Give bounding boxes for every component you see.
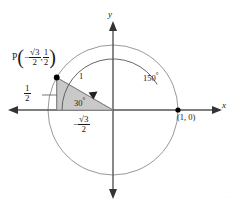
- reference-angle-label: 30°: [74, 97, 85, 107]
- reference-angle-value: 30: [74, 98, 83, 108]
- point-p-close-paren: ): [49, 49, 56, 67]
- point-p-x-denominator: 2: [29, 58, 40, 67]
- standard-angle-value: 150: [143, 73, 156, 83]
- figure-canvas: [0, 0, 236, 208]
- unit-circle-figure: P(−√32,12) 12 1 30° −√32 150° (1, 0) y x…: [0, 0, 236, 208]
- x-intercept-label: (1, 0): [177, 113, 195, 122]
- y-axis-arrow-up-icon: [109, 21, 117, 31]
- y-axis-arrow-down-icon: [109, 189, 117, 199]
- hypotenuse-label: 1: [79, 72, 83, 81]
- opposite-leg-denominator: 2: [24, 94, 31, 103]
- degree-symbol-icon: °: [156, 71, 159, 79]
- point-p-open-paren: (: [17, 49, 24, 67]
- opposite-leg-fraction: 12: [24, 84, 31, 103]
- point-p-x-numerator: 3: [35, 47, 40, 57]
- degree-symbol-icon: °: [83, 96, 86, 104]
- x-axis-label: x: [222, 101, 226, 110]
- opposite-leg-label: 12: [24, 84, 31, 103]
- y-axis-label: y: [108, 10, 112, 19]
- point-p-label: P(−√32,12): [12, 48, 56, 67]
- adjacent-leg-numerator: 3: [84, 114, 89, 124]
- point-p-x-fraction: √32: [29, 48, 40, 67]
- adjacent-leg-denominator: 2: [78, 125, 89, 134]
- adjacent-leg-label: −√32: [73, 115, 90, 134]
- x-axis-arrow-left-icon: [8, 106, 18, 114]
- standard-angle-label: 150°: [143, 72, 159, 82]
- point-p-marker: [54, 75, 60, 81]
- corner-mark: ·: [229, 195, 231, 200]
- adjacent-leg-fraction: √32: [78, 115, 89, 134]
- x-axis-arrow-right-icon: [212, 106, 222, 114]
